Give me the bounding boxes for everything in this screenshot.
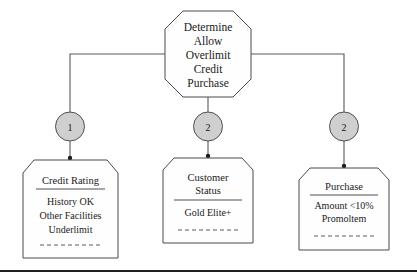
octagon-line-5: Purchase [187,77,229,89]
card-3-item-1: Amount <10% [314,200,373,211]
circle-label-3: 2 [342,122,347,133]
root-node[interactable]: Determine Allow Overlimit Credit Purchas… [165,11,251,97]
connector-root-to-branch-3 [246,54,344,112]
card-1-item-1: History OK [47,196,95,207]
card-purchase[interactable]: Purchase Amount <10% Promoltem [299,168,389,250]
card-2-title-line-1: Customer [188,172,229,183]
card-1-item-3: Underlimit [49,224,93,235]
card-3-title: Purchase [325,181,363,192]
card-2-title-line-2: Status [195,185,221,196]
card-3-item-2: Promoltem [322,213,367,224]
card-1-item-2: Other Facilities [40,210,102,221]
branch-marker-2[interactable]: 2 [194,112,223,141]
crc-diagram: Determine Allow Overlimit Credit Purchas… [0,0,417,279]
octagon-line-4: Credit [194,63,224,75]
octagon-line-3: Overlimit [186,49,232,61]
circle-label-2: 2 [206,122,211,133]
branch-marker-1[interactable]: 1 [56,112,85,141]
card-1-title: Credit Rating [42,175,100,186]
octagon-line-1: Determine [184,21,233,33]
card-customer-status[interactable]: Customer Status Gold Elite+ [163,158,253,243]
octagon-line-2: Allow [194,35,223,47]
branch-marker-3[interactable]: 2 [330,112,359,141]
card-2-item-1: Gold Elite+ [184,207,231,218]
card-credit-rating[interactable]: Credit Rating History OK Other Facilitie… [23,160,118,258]
diagram-canvas: Determine Allow Overlimit Credit Purchas… [0,0,417,279]
circle-label-1: 1 [68,122,73,133]
connector-root-to-branch-1 [70,54,170,112]
